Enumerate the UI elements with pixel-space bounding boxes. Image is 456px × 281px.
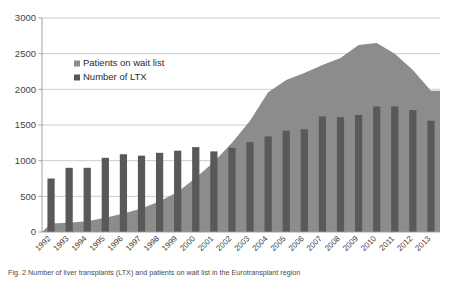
chart-plot-area: 050010001500200025003000 199219931994199… [0,0,456,262]
x-tick-label: 1995 [88,234,107,253]
y-tick-label: 500 [20,191,36,202]
legend-label: Number of LTX [83,71,147,82]
x-tick-label: 1993 [52,234,71,253]
y-tick-label: 1500 [15,119,36,130]
x-tick-label: 2011 [378,234,397,253]
y-tick-label: 1000 [15,155,36,166]
x-tick-label: 2010 [359,234,378,253]
y-tick-labels: 050010001500200025003000 [15,12,36,237]
figure-container: 050010001500200025003000 199219931994199… [0,0,456,281]
x-tick-labels: 1992199319941995199619971998199920002001… [34,234,433,253]
x-tick-label: 2012 [395,234,414,253]
x-tick-label: 2009 [341,234,360,253]
x-tick-label: 1997 [124,234,143,253]
x-tick-label: 2006 [287,234,306,253]
y-tick-label: 2000 [15,84,36,95]
x-tick-label: 1992 [34,234,53,253]
x-tick-label: 2004 [251,234,270,253]
chart-legend: Patients on wait listNumber of LTX [74,57,165,82]
legend-swatch [74,75,80,81]
x-tick-label: 2007 [305,234,324,253]
x-tick-label: 2001 [196,234,215,253]
y-tick-label: 0 [31,226,36,237]
x-tick-label: 1998 [142,234,161,253]
y-tick-label: 2500 [15,48,36,59]
x-tick-label: 2003 [233,234,252,253]
x-tick-label: 2002 [214,234,233,253]
x-tick-label: 1996 [106,234,125,253]
x-tick-label: 2005 [269,234,288,253]
combo-chart: 050010001500200025003000 199219931994199… [0,0,456,262]
x-tick-label: 1999 [160,234,179,253]
legend-label: Patients on wait list [83,57,165,68]
x-tick-label: 1994 [70,234,89,253]
figure-caption: Fig. 2 Number of liver transplants (LTX)… [8,268,452,277]
x-tick-label: 2013 [413,234,432,253]
x-tick-label: 2000 [178,234,197,253]
legend-swatch [74,61,80,67]
y-tick-label: 3000 [15,12,36,23]
x-tick-label: 2008 [323,234,342,253]
